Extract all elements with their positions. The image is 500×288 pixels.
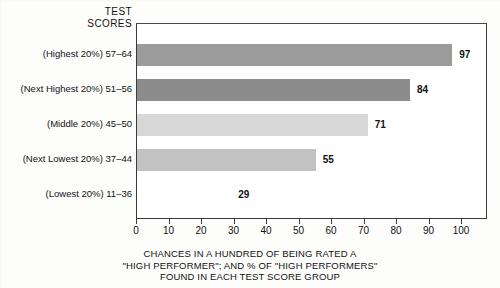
caption-line-2: "HIGH PERFORMER"; AND % OF "HIGH PERFORM… bbox=[0, 260, 500, 272]
axis-tick bbox=[234, 219, 235, 224]
axis-tick-label: 40 bbox=[260, 225, 271, 236]
category-label: (Middle 20%) 45–50 bbox=[2, 113, 132, 135]
axis-tick-label: 80 bbox=[390, 225, 401, 236]
category-axis-labels: (Highest 20%) 57–64(Next Highest 20%) 51… bbox=[0, 23, 132, 219]
axis-tick bbox=[299, 219, 300, 224]
category-label: (Next Highest 20%) 51–56 bbox=[2, 78, 132, 100]
axis-tick-label: 20 bbox=[195, 225, 206, 236]
bar bbox=[137, 79, 410, 101]
axis-tick-label: 60 bbox=[325, 225, 336, 236]
category-label: (Highest 20%) 57–64 bbox=[2, 43, 132, 65]
bar-value-label: 84 bbox=[417, 79, 428, 101]
value-axis: 0102030405060708090100 bbox=[136, 219, 487, 241]
bar bbox=[137, 114, 368, 136]
axis-tick bbox=[169, 219, 170, 224]
bar-value-label: 29 bbox=[238, 184, 249, 206]
axis-tick-label: 50 bbox=[293, 225, 304, 236]
axis-tick bbox=[266, 219, 267, 224]
axis-tick-label: 10 bbox=[163, 225, 174, 236]
chart-title-line-1: TEST bbox=[60, 6, 132, 18]
axis-tick bbox=[331, 219, 332, 224]
bar bbox=[137, 44, 452, 66]
axis-tick-label: 70 bbox=[358, 225, 369, 236]
axis-caption: CHANCES IN A HUNDRED OF BEING RATED A "H… bbox=[0, 248, 500, 283]
axis-tick bbox=[201, 219, 202, 224]
chart-page: TEST SCORES (Highest 20%) 57–64(Next Hig… bbox=[0, 0, 500, 288]
plot-area: 9784715529 bbox=[136, 23, 487, 219]
category-label: (Lowest 20%) 11–36 bbox=[2, 183, 132, 205]
axis-tick bbox=[429, 219, 430, 224]
axis-tick-label: 100 bbox=[453, 225, 470, 236]
caption-line-3: FOUND IN EACH TEST SCORE GROUP bbox=[0, 271, 500, 283]
axis-tick-label: 30 bbox=[228, 225, 239, 236]
axis-tick-label: 0 bbox=[133, 225, 139, 236]
bar-value-label: 71 bbox=[375, 114, 386, 136]
axis-tick bbox=[364, 219, 365, 224]
axis-tick bbox=[461, 219, 462, 224]
bar-value-label: 97 bbox=[459, 44, 470, 66]
caption-line-1: CHANCES IN A HUNDRED OF BEING RATED A bbox=[0, 248, 500, 260]
category-label: (Next Lowest 20%) 37–44 bbox=[2, 148, 132, 170]
axis-tick-label: 90 bbox=[423, 225, 434, 236]
bar-value-label: 55 bbox=[323, 149, 334, 171]
axis-tick bbox=[136, 219, 137, 224]
axis-tick bbox=[396, 219, 397, 224]
bar bbox=[137, 184, 231, 206]
bar bbox=[137, 149, 316, 171]
